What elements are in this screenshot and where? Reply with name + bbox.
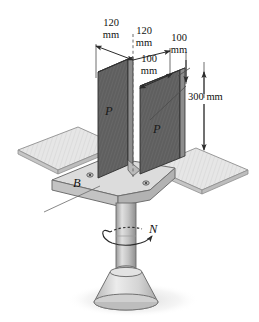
- dimension-label-300: 300 mm: [188, 91, 244, 103]
- web-plate-right: [140, 68, 185, 174]
- pedestal-footing: [94, 267, 158, 310]
- engineering-drawing: [0, 0, 259, 322]
- dim-line-120-left: [96, 46, 133, 60]
- dimension-label-100-inner: 100 mm: [132, 53, 166, 76]
- column-shaft: [116, 203, 136, 272]
- base-point-label-b: B: [73, 176, 81, 191]
- dimension-label-120-right: 120 mm: [127, 25, 161, 48]
- force-label-left-p: P: [105, 104, 113, 119]
- figure-canvas: 120 mm 120 mm 100 mm 100 mm 300 mm P P B…: [0, 0, 259, 322]
- dimension-label-120-left: 120 mm: [94, 17, 128, 40]
- force-label-right-p: P: [153, 122, 161, 137]
- torque-label-n: N: [149, 222, 157, 237]
- dimension-label-100-right: 100 mm: [162, 32, 196, 55]
